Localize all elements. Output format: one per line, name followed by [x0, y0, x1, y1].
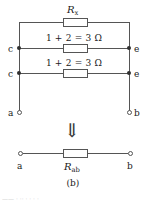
branch-lower-value-label: 1 + 2 = 3 Ω [19, 58, 129, 68]
resistor-rx-label-subscript: x [75, 9, 79, 17]
transform-arrow-icon: ⇓ [64, 121, 80, 140]
terminal-b-bottom-label: b [127, 161, 133, 171]
lower-branch-wire-left [19, 73, 63, 74]
terminal-a-bottom-label: a [17, 161, 22, 171]
middle-branch-wire-left [19, 48, 63, 49]
terminal-b-top-circuit [127, 110, 132, 115]
page-edge-artifact: —— · ·· · · · · [2, 195, 112, 200]
left-vertical-rail [19, 22, 20, 112]
branch-middle-value-label: 1 + 2 = 3 Ω [19, 33, 129, 43]
node-label-e-lower: e [134, 69, 139, 79]
node-label-e-upper: e [134, 44, 139, 54]
circuit-figure: Rx 1 + 2 = 3 Ω 1 + 2 = 3 Ω c c e e a b ⇓… [0, 0, 146, 202]
top-branch-wire-right [88, 22, 129, 23]
node-dot-c-lower [17, 71, 21, 75]
terminal-a-top-circuit [17, 110, 22, 115]
resistor-rab-label: Rab [64, 161, 80, 172]
resistor-rab [63, 149, 88, 158]
node-dot-c-upper [17, 46, 21, 50]
resistor-rab-label-subscript: ab [72, 166, 80, 174]
bottom-wire-right [88, 153, 128, 154]
node-dot-e-lower [127, 71, 131, 75]
resistor-lower [63, 69, 88, 78]
terminal-b-top-label: b [134, 108, 140, 118]
terminal-b-bottom-circuit [128, 151, 133, 156]
resistor-rab-label-base: R [64, 161, 72, 172]
resistor-middle [63, 44, 88, 53]
top-branch-wire-left [19, 22, 63, 23]
resistor-rx [63, 18, 88, 27]
terminal-a-bottom-circuit [18, 151, 23, 156]
lower-branch-wire-right [88, 73, 129, 74]
right-vertical-rail [129, 22, 130, 112]
node-label-c-upper: c [8, 44, 13, 54]
middle-branch-wire-right [88, 48, 129, 49]
bottom-wire-left [23, 153, 63, 154]
figure-caption: (b) [0, 178, 146, 188]
node-dot-e-upper [127, 46, 131, 50]
resistor-rx-label: Rx [67, 4, 78, 15]
resistor-rx-label-base: R [67, 4, 75, 15]
terminal-a-top-label: a [8, 108, 13, 118]
node-label-c-lower: c [8, 69, 13, 79]
